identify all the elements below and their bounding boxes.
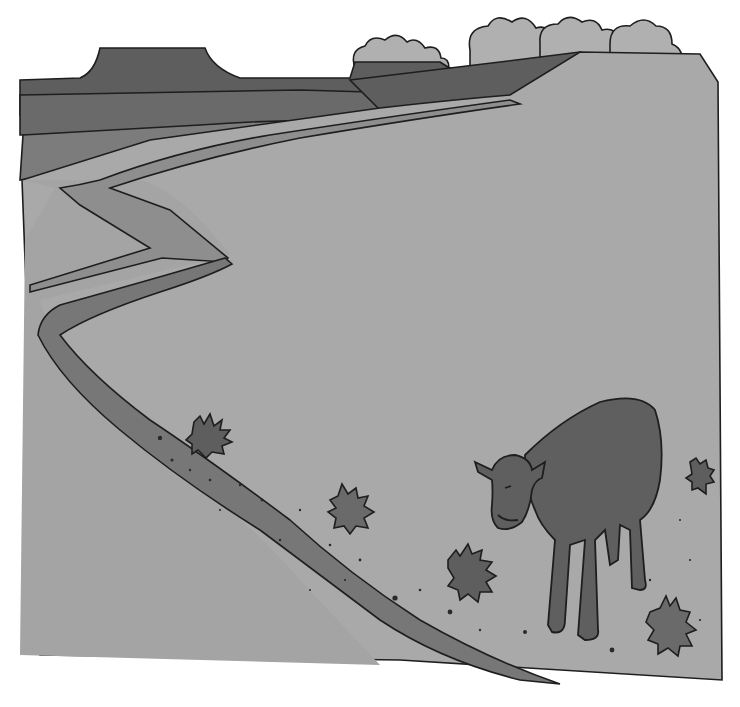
desert-cow-illustration xyxy=(0,0,740,707)
